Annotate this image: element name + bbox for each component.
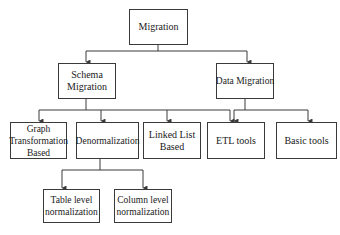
- node-schema-migration: Schema Migration: [58, 63, 116, 99]
- node-migration: Migration: [129, 9, 188, 45]
- node-label: Graph Transformation Based: [9, 123, 68, 159]
- node-data-migration: Data Migration: [216, 63, 274, 99]
- node-denormalization: Denormalization: [76, 122, 139, 159]
- node-label: Denormalization: [76, 135, 140, 147]
- migration-diagram: Migration Schema Migration Data Migratio…: [0, 0, 340, 235]
- node-basic-tools: Basic tools: [276, 122, 337, 159]
- node-label: Migration: [139, 21, 179, 33]
- node-label: Schema Migration: [60, 69, 114, 93]
- node-etl-tools: ETL tools: [207, 122, 265, 159]
- node-label: ETL tools: [216, 135, 256, 147]
- node-linked-list: Linked List Based: [143, 122, 201, 159]
- node-label: Table level normalization: [45, 194, 98, 218]
- node-label: Data Migration: [216, 75, 274, 87]
- node-label: Column level normalization: [116, 194, 170, 218]
- node-column-level: Column level normalization: [114, 189, 172, 223]
- node-table-level: Table level normalization: [43, 189, 100, 223]
- node-graph-transformation: Graph Transformation Based: [10, 122, 67, 159]
- node-label: Basic tools: [284, 135, 328, 147]
- node-label: Linked List Based: [145, 129, 199, 153]
